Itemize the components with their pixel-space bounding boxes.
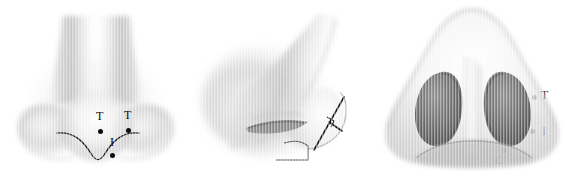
landmark-label-tip-right: T [124,109,132,121]
landmark-dot-tip-left [98,129,103,134]
lateral-nose-illustration [190,0,380,184]
landmark-dot-intermediate [110,153,115,158]
landmark-label-intermediate: I [110,136,114,148]
landmark-dot-tip-right [126,128,131,133]
landmark-label-tip-left: T [96,110,104,122]
frontal-nose-illustration [0,0,190,184]
panel-lateral-view: T I C' [190,0,380,184]
nose-landmark-figure: T T I [0,0,566,184]
panel-basal-view: T I C' [380,0,566,184]
panel-frontal-view: T T I [0,0,190,184]
basal-nose-illustration [380,0,566,184]
